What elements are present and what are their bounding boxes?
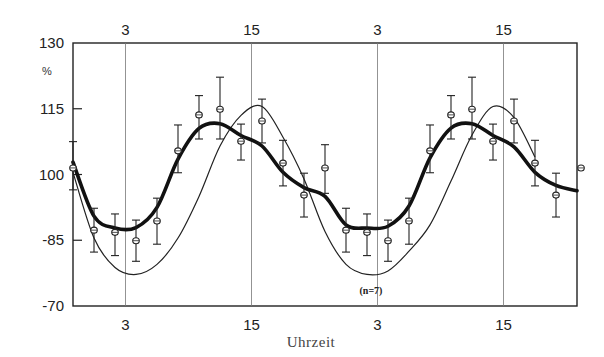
y-tick-label: 115 [40, 100, 64, 117]
data-point [531, 140, 539, 186]
data-point [363, 214, 371, 256]
circadian-chart: 130115100-85-70 % 315315 315315 Uhrzeit … [0, 0, 604, 357]
sample-size-annotation: (n=7) [360, 285, 383, 297]
data-point [552, 173, 560, 217]
x-axis-bottom-labels: 315315 [121, 316, 512, 333]
x-axis-top-labels: 315315 [121, 21, 512, 38]
y-tick-label: 130 [39, 34, 64, 51]
data-point [300, 173, 308, 217]
x-tick-label-bottom: 3 [373, 316, 381, 333]
y-tick-label: 100 [39, 166, 64, 183]
data-point [489, 124, 497, 160]
data-point [237, 124, 245, 160]
x-tick-label-top: 3 [121, 21, 129, 38]
x-tick-label-top: 3 [373, 21, 381, 38]
vertical-grid-lines [126, 43, 504, 306]
y-axis-unit: % [42, 65, 52, 77]
data-point [405, 198, 413, 244]
x-tick-label-top: 15 [243, 21, 260, 38]
data-point [342, 208, 350, 252]
x-tick-label-bottom: 3 [121, 316, 129, 333]
x-tick-label-top: 15 [495, 21, 512, 38]
data-point [510, 99, 518, 143]
data-point [321, 145, 329, 194]
y-tick-label: -70 [42, 297, 64, 314]
x-tick-label-bottom: 15 [243, 316, 260, 333]
data-point [578, 165, 585, 171]
x-tick-label-bottom: 15 [495, 316, 512, 333]
y-tick-label: -85 [42, 231, 64, 248]
data-point [216, 77, 224, 139]
data-point [279, 140, 287, 186]
data-point [111, 214, 119, 256]
x-axis-title: Uhrzeit [287, 334, 336, 350]
